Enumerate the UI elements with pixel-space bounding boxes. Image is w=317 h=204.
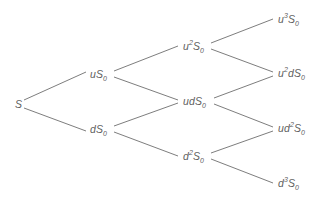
tree-edge-n0-to-n1d xyxy=(24,108,86,131)
tree-node-label-n2uu: u2S0 xyxy=(183,41,204,52)
label-part-base: S xyxy=(193,40,200,52)
tree-node-label-n3udd: ud2S0 xyxy=(278,123,305,134)
tree-edge-n1u-to-n2ud xyxy=(114,77,178,100)
tree-node-label-n1d: dS0 xyxy=(90,124,107,135)
label-part-base: S xyxy=(195,95,202,107)
label-part-sub: 0 xyxy=(200,157,204,164)
tree-edge-n2ud-to-n3udd xyxy=(214,104,273,127)
label-part-sub: 0 xyxy=(301,129,305,136)
tree-edge-n2uu-to-n3uuu xyxy=(211,19,273,43)
label-part-sub: 0 xyxy=(103,130,107,137)
label-part-base: S xyxy=(288,13,295,25)
edge-group xyxy=(24,19,273,183)
tree-edge-n1d-to-n2ud xyxy=(114,103,178,126)
tree-edge-n2ud-to-n3uud xyxy=(214,76,273,98)
label-part-sub: 0 xyxy=(295,20,299,27)
tree-node-label-n1u: uS0 xyxy=(90,69,107,80)
label-part-sub: 0 xyxy=(103,75,107,82)
label-part-sub: 0 xyxy=(200,47,204,54)
label-part-base: S xyxy=(288,177,295,189)
label-part-sub: 0 xyxy=(301,74,305,81)
tree-node-label-n0: S xyxy=(15,99,22,110)
tree-node-label-n3uuu: u3S0 xyxy=(278,14,299,25)
label-part-base: S xyxy=(96,123,103,135)
tree-node-label-n2ud: udS0 xyxy=(183,96,206,107)
label-part-sub: 0 xyxy=(295,184,299,191)
label-part-base: S xyxy=(294,67,301,79)
label-part-base: ud xyxy=(278,122,290,134)
binomial-tree-diagram: SuS0dS0u2S0udS0d2S0u3S0u2dS0ud2S0d3S0 xyxy=(0,0,317,204)
tree-edge-n0-to-n1u xyxy=(24,72,86,100)
label-part-sub: 0 xyxy=(202,102,206,109)
label-part-base: S xyxy=(294,122,301,134)
label-part-base: S xyxy=(15,98,22,110)
tree-node-label-n3uud: u2dS0 xyxy=(278,68,305,79)
tree-edge-n1u-to-n2uu xyxy=(114,46,178,71)
tree-edge-n2dd-to-n3udd xyxy=(211,131,273,153)
tree-edge-n2dd-to-n3ddd xyxy=(211,159,273,183)
tree-node-label-n3ddd: d3S0 xyxy=(278,178,299,189)
lattice-edges-layer xyxy=(0,0,317,204)
label-part-base: S xyxy=(193,150,200,162)
tree-edge-n2uu-to-n3uud xyxy=(211,49,273,72)
label-part-base: S xyxy=(96,68,103,80)
label-part-base: ud xyxy=(183,95,195,107)
tree-edge-n1d-to-n2dd xyxy=(114,132,178,156)
tree-node-label-n2dd: d2S0 xyxy=(183,151,204,162)
